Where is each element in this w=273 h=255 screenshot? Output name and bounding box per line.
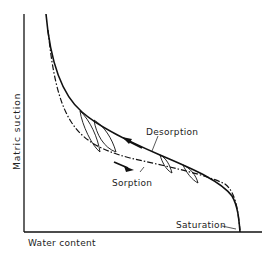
y-axis-label: Matric suction <box>12 93 22 170</box>
saturation-label: Saturation <box>176 220 226 230</box>
x-axis-label: Water content <box>28 238 96 248</box>
desorption-label: Desorption <box>146 127 198 137</box>
desorption-curve <box>46 14 240 232</box>
hysteresis-diagram <box>0 0 273 255</box>
sorption-label: Sorption <box>112 178 152 188</box>
sorption-curve <box>48 30 240 230</box>
